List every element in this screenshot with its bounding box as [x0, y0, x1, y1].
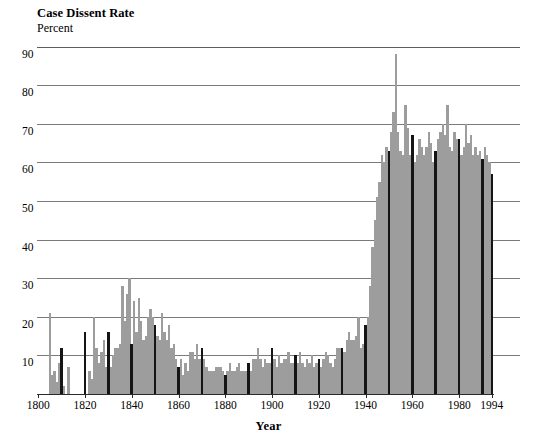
bar-1811	[63, 386, 65, 394]
y-tick-label-30: 30	[22, 280, 34, 292]
x-tick-1860	[179, 394, 180, 398]
bar-1930	[341, 348, 344, 394]
x-tick-1800	[38, 394, 39, 398]
y-tick-label-10: 10	[22, 357, 34, 369]
bar-1880	[224, 375, 227, 394]
y-tick-label-80: 80	[22, 87, 34, 99]
x-tick-label-1900: 1900	[261, 399, 284, 411]
bar-1860	[177, 367, 180, 394]
bar-1820	[84, 332, 87, 394]
x-tick-1994	[492, 394, 493, 398]
x-tick-1920	[319, 394, 320, 398]
x-tick-label-1920: 1920	[307, 399, 330, 411]
x-tick-1940	[366, 394, 367, 398]
y-tick-label-40: 40	[22, 242, 34, 254]
bar-1960	[411, 135, 414, 394]
x-tick-label-1880: 1880	[214, 399, 237, 411]
x-tick-label-1800: 1800	[27, 399, 50, 411]
y-tick-label-90: 90	[22, 49, 34, 61]
bar-1850	[154, 325, 157, 394]
bar-1990	[481, 159, 484, 394]
x-tick-label-1994: 1994	[480, 399, 503, 411]
y-axis-unit-label: Percent	[37, 21, 73, 36]
x-tick-label-1820: 1820	[73, 399, 96, 411]
bar-1980	[458, 139, 461, 394]
bar-1840	[130, 344, 133, 394]
page-title: Case Dissent Rate	[37, 6, 135, 21]
y-tick-label-60: 60	[22, 164, 34, 176]
x-tick-1820	[85, 394, 86, 398]
bar-1870	[201, 348, 204, 394]
x-tick-1960	[412, 394, 413, 398]
x-tick-1880	[225, 394, 226, 398]
x-axis-title: Year	[0, 419, 537, 434]
x-tick-label-1860: 1860	[167, 399, 190, 411]
x-tick-1980	[459, 394, 460, 398]
y-tick-label-50: 50	[22, 203, 34, 215]
bar-1813	[67, 367, 69, 394]
chart-page: Case Dissent Rate Percent 10203040506070…	[0, 0, 537, 440]
x-tick-1840	[132, 394, 133, 398]
x-tick-1900	[272, 394, 273, 398]
x-tick-label-1940: 1940	[354, 399, 377, 411]
x-tick-label-1840: 1840	[120, 399, 143, 411]
bar-1970	[434, 151, 437, 394]
bar-1890	[247, 363, 250, 394]
y-tick-label-70: 70	[22, 126, 34, 138]
bar-1920	[318, 359, 321, 394]
bar-series	[37, 39, 520, 394]
x-axis-line	[37, 394, 494, 395]
bar-1900	[271, 348, 274, 394]
bar-1994	[491, 174, 494, 394]
bar-1940	[364, 325, 367, 394]
bar-1910	[294, 355, 297, 394]
bar-1810	[60, 348, 63, 394]
bar-1830	[107, 332, 110, 394]
plot-area	[37, 39, 520, 394]
x-tick-label-1960: 1960	[401, 399, 424, 411]
y-tick-label-20: 20	[22, 319, 34, 331]
x-tick-label-1980: 1980	[448, 399, 471, 411]
bar-1950	[388, 151, 391, 394]
